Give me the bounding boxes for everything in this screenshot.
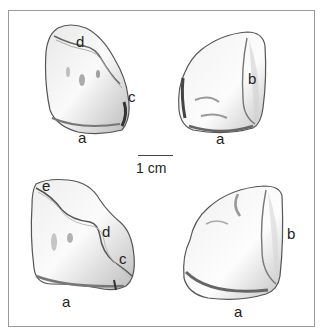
label-a: a [234, 304, 242, 319]
bone-illustration-bottom-left [28, 176, 140, 302]
label-b: b [248, 71, 256, 86]
label-b: b [287, 226, 295, 241]
label-e: e [42, 178, 50, 193]
label-c: c [119, 251, 127, 266]
bone-illustration-top-left [40, 22, 135, 140]
label-a: a [62, 294, 70, 309]
scale-bar [138, 155, 173, 156]
bone-illustration-bottom-right [180, 180, 288, 306]
label-c: c [128, 89, 136, 104]
label-d: d [76, 34, 84, 49]
scale-bar-label: 1 cm [136, 160, 166, 176]
label-a: a [216, 131, 224, 146]
label-a: a [78, 130, 86, 145]
label-d: d [102, 224, 110, 239]
